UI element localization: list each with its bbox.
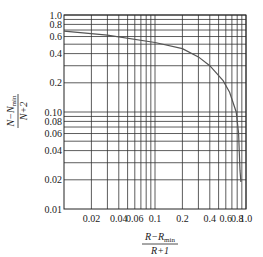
y-tick-labels: 1.00.80.60.40.20.100.080.060.040.020.01 — [45, 10, 63, 215]
y-tick-label: 0.6 — [50, 31, 63, 42]
x-tick-label: 0.1 — [149, 213, 162, 224]
y-tick-label: 0.4 — [50, 48, 63, 59]
x-tick-label: 1.0 — [240, 213, 253, 224]
y-tick-label: 0.8 — [50, 19, 63, 30]
x-tick-label: 0.06 — [126, 213, 144, 224]
x-tick-label: 0.2 — [176, 213, 189, 224]
x-tick-labels: 0.020.040.060.10.20.40.60.81.0 — [83, 213, 253, 224]
x-axis-label: R−Rmin R+1 — [142, 231, 178, 256]
y-tick-label: 0.01 — [45, 204, 63, 215]
y-axis-label: N−Nmin N+2 — [5, 94, 29, 128]
x-tick-label: 0.02 — [83, 213, 101, 224]
grid-lines — [64, 15, 246, 209]
x-axis-label-numerator: R−Rmin — [144, 231, 175, 244]
y-axis-label-numerator: N−Nmin — [5, 95, 18, 127]
y-tick-label: 0.02 — [45, 174, 63, 185]
x-tick-label: 0.04 — [110, 213, 128, 224]
y-tick-label: 0.06 — [45, 128, 63, 139]
y-tick-label: 0.08 — [45, 116, 63, 127]
y-tick-label: 0.2 — [50, 77, 63, 88]
x-tick-label: 0.4 — [204, 213, 217, 224]
x-axis-label-denominator: R+1 — [150, 245, 169, 256]
y-axis-label-denominator: N+2 — [18, 102, 29, 121]
y-tick-label: 0.04 — [45, 145, 63, 156]
gilliland-chart: 1.00.80.60.40.20.100.080.060.040.020.01 … — [0, 0, 263, 257]
